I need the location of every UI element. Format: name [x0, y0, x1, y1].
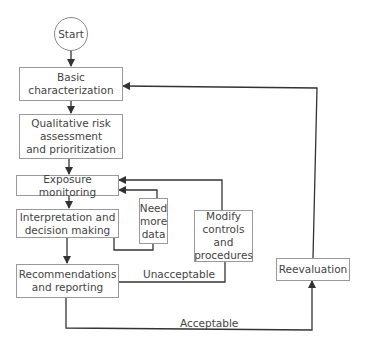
edge-modify-exposure — [119, 180, 222, 210]
modify-controls-label: Modify controls and procedures — [194, 210, 253, 262]
exposure-monitoring-label: Exposure monitoring — [17, 173, 118, 199]
edge-needdata-exposure — [119, 190, 157, 198]
basic-characterization-label: Basic characterization — [28, 71, 113, 97]
reevaluation-label: Reevaluation — [279, 263, 348, 276]
modify-controls-node: Modify controls and procedures — [194, 210, 253, 262]
start-node: Start — [54, 17, 88, 51]
need-more-data-node: Need more data — [139, 198, 168, 244]
interpretation-label: Interpretation and decision making — [20, 211, 116, 237]
recommendations-node: Recommendations and reporting — [16, 264, 119, 298]
recommendations-label: Recommendations and reporting — [19, 268, 117, 294]
qualitative-risk-label: Qualitative risk assessment and prioriti… — [26, 117, 116, 156]
reevaluation-node: Reevaluation — [276, 258, 350, 281]
acceptable-edge-label: Acceptable — [180, 317, 238, 329]
exposure-monitoring-node: Exposure monitoring — [16, 175, 119, 196]
need-more-data-label: Need more data — [140, 202, 167, 241]
basic-characterization-node: Basic characterization — [19, 67, 123, 101]
start-label: Start — [58, 28, 84, 41]
flowchart-canvas: Start Basic characterization Qualitative… — [0, 0, 367, 345]
interpretation-node: Interpretation and decision making — [16, 209, 119, 238]
qualitative-risk-node: Qualitative risk assessment and prioriti… — [19, 114, 123, 159]
unacceptable-edge-label: Unacceptable — [143, 268, 215, 280]
